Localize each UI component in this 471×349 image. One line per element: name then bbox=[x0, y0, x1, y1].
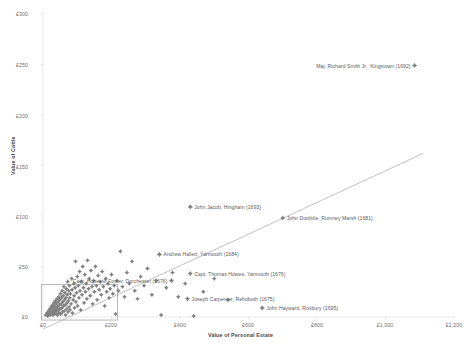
y-tick-label: £300 bbox=[2, 11, 28, 17]
point-label: Maj. Richard Smith Jr., Kingstown (1692) bbox=[316, 63, 410, 69]
x-axis-title: Value of Personal Estate bbox=[208, 332, 273, 338]
y-tick-label: £0 bbox=[2, 314, 28, 320]
x-tick-label: £1,200 bbox=[434, 322, 471, 328]
point-label: Andrew Hallett, Yarmouth (1684) bbox=[163, 251, 238, 257]
point-label: John Hayward, Roxbury (1695) bbox=[266, 305, 338, 311]
x-tick-label: £400 bbox=[160, 322, 200, 328]
point-label: Capt. Thomas Howes, Yarmouth (1676) bbox=[194, 271, 285, 277]
point-label: Joseph Carpenter, Rehoboth (1675) bbox=[192, 296, 275, 302]
x-tick-label: £1,000 bbox=[365, 322, 405, 328]
x-tick-label: £200 bbox=[91, 322, 131, 328]
x-tick-label: £800 bbox=[297, 322, 337, 328]
point-label: John Doolittle, Rumney Marsh (1681) bbox=[287, 215, 373, 221]
point-label: John Jacob, Hingham (1693) bbox=[194, 204, 261, 210]
y-tick-label: £50 bbox=[2, 264, 28, 270]
y-tick-label: £250 bbox=[2, 62, 28, 68]
page-caption bbox=[0, 341, 471, 349]
point-label: Capt. Hopestill Foster, Dorchester (1676… bbox=[73, 278, 168, 284]
y-tick-label: £200 bbox=[2, 113, 28, 119]
y-tick-label: £100 bbox=[2, 214, 28, 220]
x-tick-label: £600 bbox=[228, 322, 268, 328]
scatter-chart: £300 £250 £200 £150 £100 £50 £0 £0 £200 … bbox=[0, 0, 471, 349]
x-tick-label: £0 bbox=[23, 322, 63, 328]
y-axis-title: Value of Cattle bbox=[10, 136, 16, 175]
